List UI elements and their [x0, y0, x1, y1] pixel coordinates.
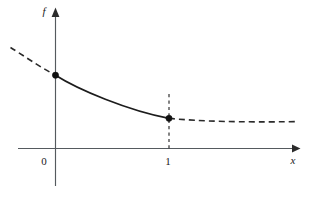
x-axis-arrow-icon — [292, 145, 301, 153]
data-point-marker-x1 — [166, 115, 172, 121]
x-axis-label: x — [290, 154, 296, 166]
x-tick-label-0: 0 — [41, 155, 47, 167]
curve-solid-segment — [56, 75, 170, 118]
curve-dashed-right-segment — [169, 118, 298, 122]
plot-canvas: 0 1 f x — [0, 0, 310, 203]
y-axis-arrow-icon — [52, 8, 60, 18]
data-point-marker-x0 — [52, 72, 58, 78]
y-axis-label: f — [42, 5, 47, 17]
curve-dashed-left-segment — [11, 48, 56, 76]
x-tick-label-1: 1 — [165, 155, 171, 167]
function-graph-figure: 0 1 f x — [0, 0, 310, 203]
